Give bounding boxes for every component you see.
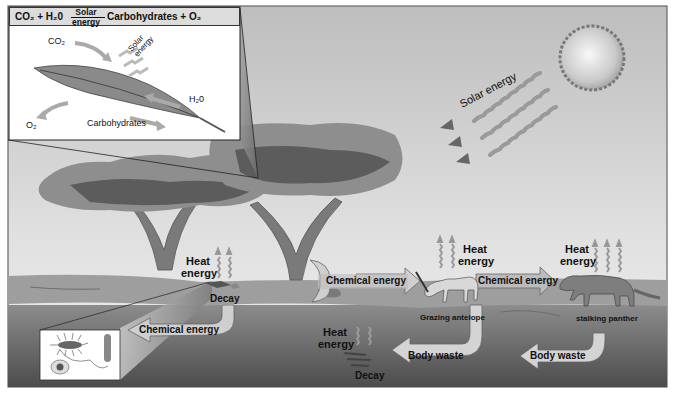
decay-label-tree: Decay: [210, 294, 239, 305]
body-waste-label-antelope: Body waste: [408, 351, 464, 362]
body-waste-label-panther: Body waste: [530, 351, 586, 362]
heat-energy-label-decay: Heat energy: [318, 327, 352, 350]
carbohydrates-label: Carbohydrates: [87, 119, 146, 128]
equation-reactants: CO₂ + H₂0: [15, 11, 63, 22]
equation-arrow-bottom: energy: [69, 17, 103, 27]
chemical-energy-label-tree-antelope: Chemical energy: [326, 276, 406, 287]
rod-bacterium-icon: [104, 334, 111, 362]
panther-label: stalking panther: [576, 315, 638, 323]
co2-label: CO₂: [48, 37, 65, 46]
heat-energy-label-panther: Heat energy: [560, 244, 594, 267]
sun-icon: [560, 26, 624, 90]
h2o-label: H₂0: [189, 95, 204, 104]
equation-products: Carbohydrates + O₂: [107, 11, 201, 22]
photosynthesis-equation: CO₂ + H₂0 Solar energy Carbohydrates + O…: [9, 7, 240, 26]
chemical-energy-label-antelope-panther: Chemical energy: [478, 276, 558, 287]
o2-label: O₂: [26, 121, 37, 130]
bacterium-icon: [58, 341, 82, 349]
heat-energy-label-antelope: Heat energy: [458, 244, 492, 267]
equation-arrow-top: Solar: [71, 7, 101, 17]
ecosystem-energy-diagram: CO₂ + H₂0 Solar energy Carbohydrates + O…: [0, 0, 673, 396]
decay-label-middle: Decay: [355, 371, 384, 382]
chemical-energy-label-decomposers: Chemical energy: [139, 325, 219, 336]
antelope-label: Grazing antelope: [420, 314, 485, 322]
heat-energy-label-tree: Heat energy: [181, 256, 215, 279]
